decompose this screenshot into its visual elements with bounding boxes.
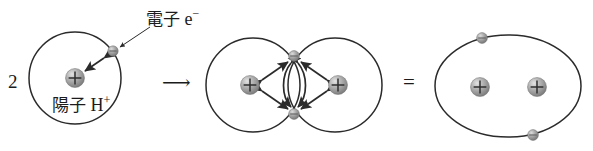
force-arrows-curved-pair: [284, 63, 306, 107]
electron-sphere-top-left: [477, 33, 488, 44]
proton-label-symbol: H: [91, 95, 104, 115]
electron-label-charge: −: [193, 7, 200, 21]
electron-sphere-bottom: [289, 109, 300, 120]
force-arrow-double-headed: [85, 58, 104, 71]
stoichiometric-coefficient: 2: [8, 72, 18, 91]
proton-label-charge: +: [104, 93, 111, 107]
proton-sphere-right: [329, 76, 348, 95]
electron-sphere: [108, 46, 118, 56]
electron-callout-leader-line: [120, 27, 150, 47]
electron-label: 電子 e−: [146, 8, 199, 28]
electron-label-symbol: e: [185, 9, 193, 29]
electron-sphere-top: [289, 51, 300, 62]
equals-sign: =: [403, 72, 415, 93]
figure-canvas: 2 ⟶ = 電子 e− 陽子 H+: [0, 0, 593, 151]
proton-label: 陽子 H+: [52, 94, 110, 114]
proton-label-jp: 陽子: [52, 95, 86, 115]
molecular-orbital-ellipse: [435, 35, 581, 137]
force-arrows-diamond: [262, 62, 327, 109]
proton-sphere-left: [471, 78, 490, 97]
proton-sphere-right: [528, 78, 547, 97]
electron-sphere-bottom-right: [528, 130, 539, 141]
proton-sphere: [66, 69, 85, 88]
proton-sphere-left: [241, 76, 260, 95]
electron-label-jp: 電子: [146, 9, 180, 29]
reaction-arrow: ⟶: [162, 72, 191, 92]
panel-hydrogen-molecule-combined: [435, 33, 581, 141]
panel-hydrogen-molecule-overlap: [206, 38, 382, 132]
chemistry-diagram: [0, 0, 593, 151]
